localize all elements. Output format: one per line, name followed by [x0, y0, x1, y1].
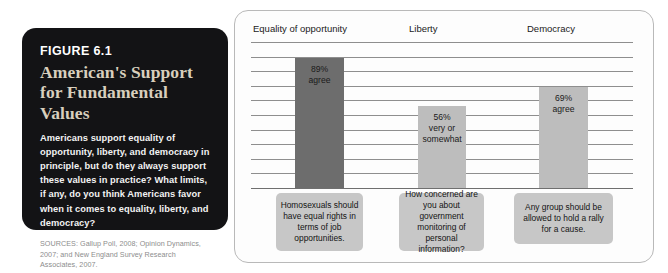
question-caption-text: How concerned are you about government m… [403, 189, 480, 255]
question-caption-text: Any group should be allowed to hold a ra… [518, 202, 609, 235]
category-header-democracy: Democracy [527, 23, 575, 34]
category-header-row: Equality of opportunity Liberty Democrac… [251, 23, 639, 43]
question-caption-democracy: Any group should be allowed to hold a ra… [514, 193, 613, 244]
question-caption-liberty: How concerned are you about government m… [399, 193, 484, 251]
figure-number: FIGURE 6.1 [40, 44, 212, 58]
category-header-equality: Equality of opportunity [253, 23, 347, 34]
question-caption-text: Homosexuals should have equal rights in … [280, 200, 359, 244]
bar-liberty: 56%very orsomewhat [418, 106, 466, 188]
plot-area: 89%agree56%very orsomewhat69%agree [251, 42, 633, 188]
figure-body-text: Americans support equality of opportunit… [40, 131, 212, 230]
category-header-liberty: Liberty [409, 23, 438, 34]
question-caption-row: Homosexuals should have equal rights in … [251, 193, 639, 251]
bar-equality-of-opportunity: 89%agree [295, 58, 344, 188]
gridline [251, 42, 633, 43]
figure-callout-panel: FIGURE 6.1 American's Support for Fundam… [22, 28, 228, 230]
bar-value-label: 56%very orsomewhat [418, 106, 466, 145]
bar-value-label: 89%agree [295, 58, 344, 86]
bar-democracy: 69%agree [539, 87, 588, 188]
chart-inner: Equality of opportunity Liberty Democrac… [251, 23, 639, 251]
figure-title: American's Support for Fundamental Value… [40, 62, 212, 123]
question-caption-equality: Homosexuals should have equal rights in … [276, 193, 363, 251]
figure-sources-text: SOURCES: Gallup Poll, 2008; Opinion Dyna… [40, 239, 212, 271]
chart-panel: Equality of opportunity Liberty Democrac… [234, 10, 654, 263]
bar-value-label: 69%agree [539, 87, 588, 115]
